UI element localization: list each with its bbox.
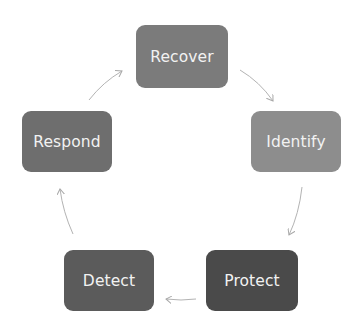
node-identify: Identify xyxy=(251,111,341,172)
arrow-protect-to-detect xyxy=(166,299,196,300)
node-identify-label: Identify xyxy=(266,133,325,151)
node-recover: Recover xyxy=(136,25,228,88)
node-respond-label: Respond xyxy=(33,133,100,151)
node-detect-label: Detect xyxy=(83,272,135,290)
node-protect: Protect xyxy=(206,250,298,311)
node-protect-label: Protect xyxy=(224,272,280,290)
arrow-detect-to-respond xyxy=(60,189,73,234)
arrow-recover-to-identify xyxy=(240,70,273,101)
arrow-respond-to-recover xyxy=(89,71,122,100)
arrow-identify-to-protect xyxy=(289,187,302,235)
node-respond: Respond xyxy=(22,111,112,172)
node-detect: Detect xyxy=(64,250,154,311)
node-recover-label: Recover xyxy=(150,48,213,66)
